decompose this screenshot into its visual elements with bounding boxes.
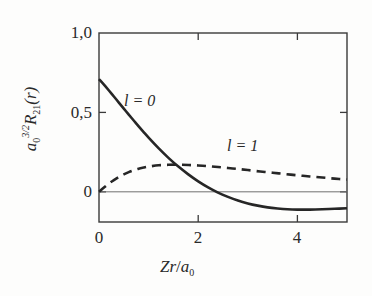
series-line-l-0 (99, 79, 347, 210)
series-line-l-1 (99, 165, 347, 192)
plot-area (0, 0, 372, 296)
data-curves (99, 79, 347, 210)
figure-container: a03/2R21(r) Zr/a0 1,0 0,5 0 0 2 4 l = 0 … (0, 0, 372, 296)
